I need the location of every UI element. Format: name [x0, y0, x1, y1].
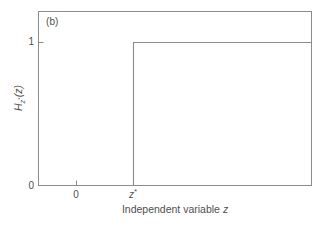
x-tick-label-zstar: z* — [125, 189, 141, 200]
x-tick-zstar-star: * — [134, 187, 137, 196]
panel-label: (b) — [46, 16, 59, 27]
y-tick-label-0: 0 — [23, 180, 34, 191]
x-axis-title: Independent variable z — [38, 203, 312, 215]
y-axis-title-h: H — [12, 103, 24, 111]
x-axis-title-var: z — [223, 203, 228, 215]
x-axis-title-text: Independent variable — [122, 203, 223, 215]
plot-frame — [38, 11, 312, 186]
y-axis-title-sub-star: * — [17, 97, 23, 99]
y-axis-title: Hz*(z) — [12, 58, 24, 138]
y-tick-label-1: 1 — [23, 36, 34, 47]
figure-panel-b: (b) 1 0 0 z* Independent variable z Hz*(… — [0, 0, 329, 225]
y-axis-title-sub-var: z — [18, 100, 27, 104]
y-axis-title-arg: (z) — [12, 85, 24, 97]
x-tick-label-0: 0 — [69, 189, 83, 200]
